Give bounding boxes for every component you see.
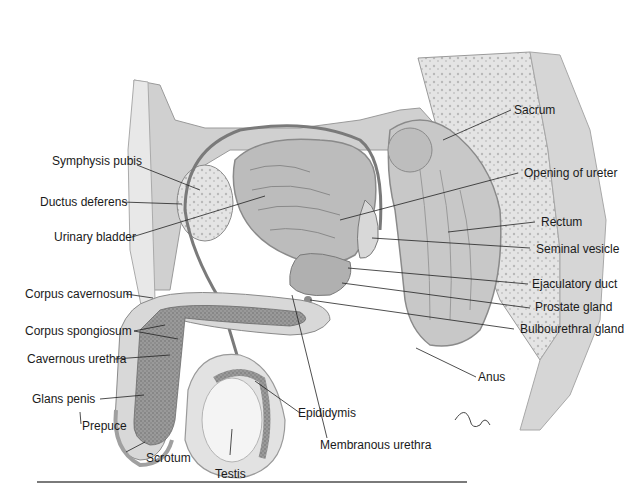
scrotum-shape — [185, 354, 285, 478]
label-bulbourethral-gland: Bulbourethral gland — [520, 322, 624, 336]
label-seminal-vesicle: Seminal vesicle — [536, 242, 619, 256]
label-anus: Anus — [478, 370, 505, 384]
label-corpus-cavernosum: Corpus cavernosum — [25, 287, 132, 301]
label-scrotum: Scrotum — [146, 451, 191, 465]
label-sacrum: Sacrum — [514, 103, 555, 117]
label-cavernous-urethra: Cavernous urethra — [27, 352, 126, 366]
label-symphysis-pubis: Symphysis pubis — [52, 154, 142, 168]
testis-shape — [202, 378, 262, 462]
label-glans-penis: Glans penis — [32, 392, 95, 406]
label-rectum: Rectum — [541, 215, 582, 229]
label-urinary-bladder: Urinary bladder — [54, 230, 136, 244]
label-prostate-gland: Prostate gland — [535, 300, 612, 314]
label-membranous-urethra: Membranous urethra — [320, 438, 431, 452]
label-ductus-deferens: Ductus deferens — [40, 195, 127, 209]
bottom-rule — [37, 481, 467, 483]
artist-signature — [455, 413, 490, 427]
label-testis: Testis — [215, 467, 246, 481]
label-corpus-spongiosum: Corpus spongiosum — [25, 324, 132, 338]
label-prepuce: Prepuce — [82, 419, 127, 433]
urinary-bladder-shape — [233, 139, 376, 264]
label-opening-of-ureter: Opening of ureter — [524, 166, 617, 180]
label-epididymis: Epididymis — [298, 406, 356, 420]
label-ejaculatory-duct: Ejaculatory duct — [532, 277, 617, 291]
